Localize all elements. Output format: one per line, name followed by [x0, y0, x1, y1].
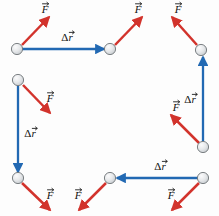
ball-group: [11, 43, 208, 183]
force-mid-right: [171, 115, 199, 143]
force-bottom-mid: [79, 183, 106, 210]
force-bottom-mid-label: F: [74, 188, 82, 200]
force-top-right: [172, 17, 197, 45]
disp-top-label: Δr: [61, 31, 74, 43]
force-top-mid: [115, 17, 142, 45]
ball-bottom-left: [12, 172, 23, 183]
force-bottom-left-label: F: [46, 188, 54, 200]
disp-left-label: Δr: [24, 127, 37, 139]
displacement-arrow-group: [18, 49, 203, 178]
ball-top-left: [11, 43, 22, 54]
ball-top-right: [195, 44, 206, 55]
force-displacement-vector-diagram: FFFFFFFFΔrΔrΔrΔr: [0, 0, 219, 216]
force-mid-right-label: F: [172, 100, 180, 112]
diagram-canvas: FFFFFFFFΔrΔrΔrΔr: [0, 0, 219, 216]
disp-right-label: Δr: [184, 93, 197, 105]
force-top-left-label: F: [41, 2, 49, 14]
ball-mid-left: [12, 74, 23, 85]
force-top-left: [22, 17, 49, 45]
force-bottom-right-label: F: [167, 188, 175, 200]
ball-top-mid: [104, 43, 115, 54]
force-top-right-label: F: [174, 2, 182, 14]
force-mid-left-label: F: [46, 91, 54, 103]
force-top-mid-label: F: [134, 2, 142, 14]
ball-bottom-mid: [104, 172, 115, 183]
vector-label-group: FFFFFFFFΔrΔrΔrΔr: [24, 2, 197, 200]
force-bottom-right: [172, 183, 199, 210]
ball-mid-right: [197, 141, 208, 152]
ball-bottom-right: [197, 172, 208, 183]
disp-bottom-label: Δr: [154, 160, 167, 172]
